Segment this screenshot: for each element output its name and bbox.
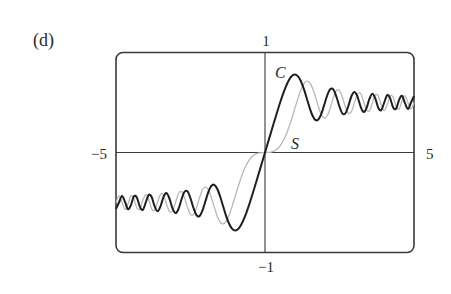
- fresnel-chart: (d) 1 −1 −5 5 C S: [0, 0, 451, 294]
- x-min-label: −5: [91, 146, 107, 162]
- y-min-label: −1: [258, 259, 274, 275]
- series-C-label: C: [275, 64, 286, 81]
- series-S-label: S: [291, 135, 299, 152]
- y-max-label: 1: [262, 33, 270, 49]
- panel-label: (d): [33, 30, 54, 51]
- x-max-label: 5: [426, 146, 434, 162]
